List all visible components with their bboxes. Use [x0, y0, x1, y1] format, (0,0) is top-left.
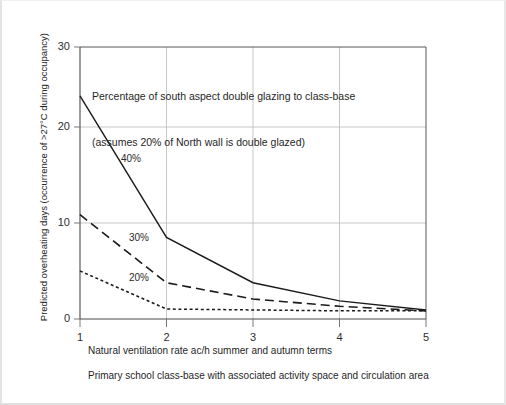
y-axis-ticks	[74, 47, 80, 319]
y-axis-label: Predicted overheating days (occurrence o…	[38, 27, 50, 327]
annotation-line-1: Percentage of south aspect double glazin…	[92, 89, 355, 104]
x-axis-label: Natural ventilation rate ac/h summer and…	[88, 345, 332, 358]
x-tick-label-2: 2	[155, 331, 179, 343]
y-tick-label-20: 20	[40, 120, 70, 132]
y-tick-label-0: 0	[40, 312, 70, 324]
x-tick-label-4: 4	[328, 331, 352, 343]
x-tick-label-3: 3	[241, 331, 265, 343]
annotation-line-2: (assumes 20% of North wall is double gla…	[92, 135, 355, 150]
series-label-40: 40%	[121, 153, 141, 164]
x-tick-label-1: 1	[68, 331, 92, 343]
figure-panel: Predicted overheating days (occurrence o…	[0, 0, 506, 405]
series-label-30: 30%	[129, 232, 149, 243]
series-label-20: 20%	[129, 272, 149, 283]
figure-caption: Primary school class-base with associate…	[88, 370, 429, 383]
y-tick-label-30: 30	[40, 40, 70, 52]
x-axis-ticks	[80, 319, 426, 327]
x-tick-label-5: 5	[414, 331, 438, 343]
y-tick-label-10: 10	[40, 216, 70, 228]
